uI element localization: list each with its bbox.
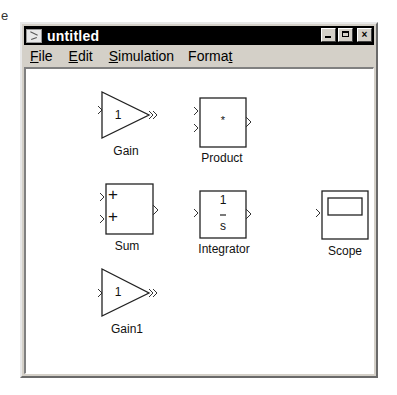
model-window: untitled × File Edit Simulation Format 1… <box>20 22 378 378</box>
menu-bar: File Edit Simulation Format <box>24 46 374 66</box>
simulink-app-icon[interactable] <box>26 29 42 43</box>
sum-sign-2: + <box>108 207 118 227</box>
minimize-button[interactable] <box>321 28 336 42</box>
title-bar[interactable]: untitled × <box>24 26 374 45</box>
gain1-label: Gain1 <box>111 322 143 336</box>
gain-triangle-icon <box>98 92 158 142</box>
sum-sign-1: + <box>108 185 118 205</box>
menu-simulation[interactable]: Simulation <box>109 48 174 64</box>
sum-label: Sum <box>115 239 140 253</box>
product-symbol: * <box>221 114 225 126</box>
close-button[interactable]: × <box>357 28 372 42</box>
product-label: Product <box>201 151 242 165</box>
model-canvas[interactable]: 1 Gain * Product + + Sum <box>24 67 374 374</box>
integrator-label: Integrator <box>198 242 249 256</box>
background-text-fragment: e <box>1 8 8 23</box>
menu-file[interactable]: File <box>30 48 53 64</box>
close-icon: × <box>362 29 368 40</box>
integrator-denominator: s <box>220 219 226 233</box>
integrator-numerator: 1 <box>220 193 227 207</box>
scope-label: Scope <box>328 244 362 258</box>
gain-label: Gain <box>113 144 138 158</box>
gain1-value: 1 <box>115 285 122 299</box>
maximize-button[interactable] <box>338 28 353 42</box>
gain-value: 1 <box>115 108 122 122</box>
menu-edit[interactable]: Edit <box>69 48 93 64</box>
gain1-triangle-icon <box>98 269 158 319</box>
scope-box-icon <box>316 191 372 243</box>
menu-format[interactable]: Format <box>188 48 232 64</box>
window-title: untitled <box>47 28 99 44</box>
